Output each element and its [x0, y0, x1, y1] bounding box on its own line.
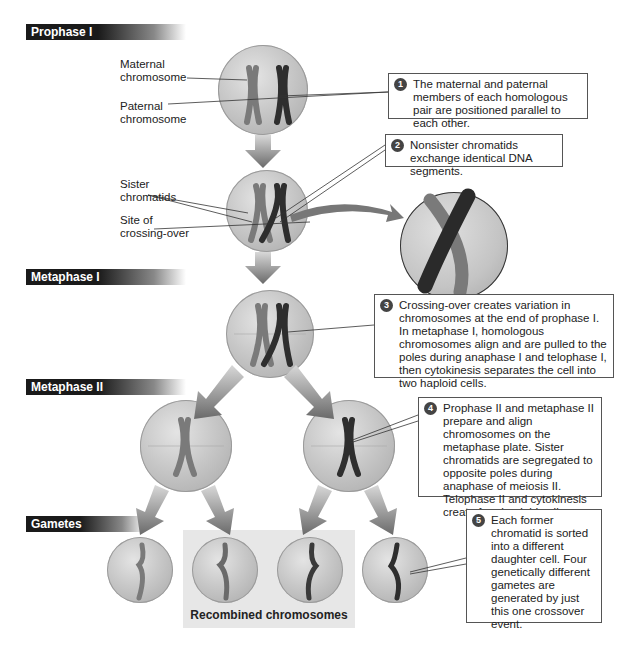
chromosome-crossover	[251, 186, 288, 240]
label-maternal-chromosome: Maternalchromosome	[120, 58, 186, 84]
label-paternal-chromosome: Paternalchromosome	[120, 100, 186, 126]
label-sister-chromatids: Sisterchromatids	[120, 178, 176, 204]
arrow-magnify-icon	[290, 204, 404, 222]
chromosome-magnified	[425, 196, 468, 292]
callout-1: 1 The maternal and paternal members of e…	[388, 73, 588, 119]
chromosome-pair-prophase	[247, 68, 289, 122]
callout-5: 5 Each former chromatid is sorted into a…	[466, 509, 602, 623]
label-site-of-crossing-over: Site ofcrossing-over	[120, 214, 189, 240]
step-5-icon: 5	[472, 514, 485, 527]
chromosome-gamete-4	[391, 545, 399, 598]
step-4-icon: 4	[424, 402, 437, 415]
callout-4: 4 Prophase II and metaphase II prepare a…	[418, 397, 602, 497]
chromosome-gamete-1	[139, 545, 143, 598]
arrow-split-icon	[136, 365, 397, 535]
chromosome-gamete-3	[308, 545, 316, 598]
chromosome-metaphase-i	[253, 306, 290, 364]
step-1-icon: 1	[394, 78, 407, 91]
chromosome-metaphase-ii-left	[176, 420, 194, 474]
step-3-icon: 3	[380, 299, 393, 312]
callout-2: 2 Nonsister chromatids exchange identica…	[385, 134, 563, 167]
chromosome-metaphase-ii-right	[340, 420, 358, 474]
callout-3: 3 Crossing-over creates variation in chr…	[374, 294, 614, 378]
step-2-icon: 2	[391, 139, 404, 152]
chromosome-gamete-2	[220, 545, 227, 598]
